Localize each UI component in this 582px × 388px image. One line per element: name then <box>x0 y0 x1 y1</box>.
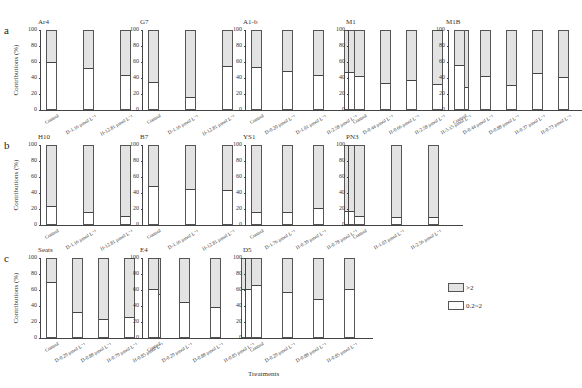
y-tick-label: 40 <box>23 74 37 80</box>
bar-segment-gt2 <box>84 146 93 213</box>
bar-segment-gt2 <box>47 31 56 63</box>
stacked-bar <box>354 30 365 110</box>
bar-segment-gt2 <box>407 31 416 81</box>
row-letter-b: b <box>4 139 10 151</box>
stacked-bar <box>313 30 324 110</box>
stacked-bar <box>185 30 196 110</box>
y-tick-label: 0 <box>331 221 345 227</box>
legend-swatch-small <box>448 301 464 310</box>
y-tick-label: 40 <box>125 302 139 308</box>
x-axis <box>348 225 463 226</box>
y-tick-label: 60 <box>23 286 37 292</box>
bar-segment-gt2 <box>507 31 516 86</box>
y-axis <box>245 145 246 225</box>
y-tick-label: 0 <box>23 334 37 340</box>
y-tick-mark <box>141 209 143 210</box>
y-tick-label: 40 <box>331 189 345 195</box>
stacked-bar <box>148 258 159 338</box>
stacked-bar <box>251 258 262 338</box>
y-tick-mark <box>347 78 349 79</box>
y-tick-label: 40 <box>125 189 139 195</box>
y-tick-mark <box>39 193 41 194</box>
bar-segment-gt2 <box>149 31 158 83</box>
y-tick-label: 100 <box>228 26 242 32</box>
legend-swatch-gt2 <box>448 283 464 292</box>
stacked-bar <box>148 30 159 110</box>
y-tick-label: 40 <box>228 74 242 80</box>
x-tick-label: D-1.16 μmol L⁻¹ <box>166 113 199 135</box>
panel-title-pn3: PN3 <box>346 133 358 141</box>
y-tick-label: 0 <box>228 106 242 112</box>
stacked-bar <box>251 30 262 110</box>
y-tick-label: 40 <box>331 74 345 80</box>
stacked-bar <box>313 258 324 338</box>
stacked-bar <box>72 258 83 338</box>
y-tick-label: 20 <box>228 90 242 96</box>
bar-segment-gt2 <box>252 259 261 286</box>
y-tick-mark <box>141 78 143 79</box>
x-tick-label: H-1.03 μmol L⁻¹ <box>372 228 405 250</box>
y-tick-mark <box>244 161 246 162</box>
y-tick-mark <box>39 322 41 323</box>
y-tick-label: 0 <box>431 106 445 112</box>
bar-segment-gt2 <box>429 146 438 218</box>
y-axis <box>40 145 41 225</box>
y-tick-mark <box>347 209 349 210</box>
bar-segment-gt2 <box>381 31 390 84</box>
legend-label-gt2: >2 <box>466 284 473 292</box>
y-tick-label: 40 <box>125 74 139 80</box>
y-tick-mark <box>244 306 246 307</box>
x-tick-label: H-12.81 μmol L⁻¹ <box>99 228 134 252</box>
stacked-bar <box>46 258 57 338</box>
y-tick-label: 80 <box>23 42 37 48</box>
y-tick-label: 80 <box>125 157 139 163</box>
panel-title-h10: H10 <box>38 133 50 141</box>
y-tick-mark <box>141 46 143 47</box>
x-tick-label: H-12.81 μmol L⁻¹ <box>201 228 236 252</box>
y-tick-label: 100 <box>431 26 445 32</box>
y-tick-mark <box>39 62 41 63</box>
bar-segment-gt2 <box>283 259 292 293</box>
y-tick-mark <box>141 94 143 95</box>
y-tick-mark <box>141 274 143 275</box>
y-tick-mark <box>347 110 349 111</box>
bar-segment-gt2 <box>314 146 323 209</box>
stacked-bar <box>179 258 190 338</box>
y-tick-mark <box>244 209 246 210</box>
bar-segment-gt2 <box>149 259 158 290</box>
bar-segment-gt2 <box>283 31 292 72</box>
x-tick-label: D-0.88 μmol L⁻¹ <box>191 341 224 363</box>
y-tick-mark <box>141 258 143 259</box>
y-tick-mark <box>447 78 449 79</box>
bar-segment-gt2 <box>84 31 93 69</box>
y-tick-label: 80 <box>23 270 37 276</box>
stacked-bar <box>282 145 293 225</box>
bar-segment-gt2 <box>252 146 261 213</box>
bar-segment-gt2 <box>73 259 82 313</box>
y-tick-label: 100 <box>331 26 345 32</box>
y-tick-mark <box>244 193 246 194</box>
y-tick-label: 0 <box>228 221 242 227</box>
y-tick-mark <box>39 177 41 178</box>
y-tick-label: 20 <box>431 90 445 96</box>
y-tick-label: 100 <box>23 254 37 260</box>
y-tick-label: 40 <box>23 189 37 195</box>
y-tick-mark <box>141 322 143 323</box>
y-tick-label: 80 <box>228 42 242 48</box>
y-tick-label: 20 <box>125 90 139 96</box>
panel-title-g7: G7 <box>140 18 149 26</box>
x-tick-label: H-12.81 μmol L⁻¹ <box>99 113 134 137</box>
bar-segment-gt2 <box>252 31 261 68</box>
y-tick-label: 40 <box>431 74 445 80</box>
x-tick-label: Control <box>44 341 60 353</box>
y-tick-label: 80 <box>125 270 139 276</box>
stacked-bar <box>83 145 94 225</box>
panel-title-seats: Seats <box>38 246 53 254</box>
y-tick-mark <box>141 30 143 31</box>
y-tick-mark <box>141 338 143 339</box>
y-tick-label: 0 <box>23 221 37 227</box>
stacked-bar <box>210 258 221 338</box>
panel-title-ar4: Ar4 <box>38 18 49 26</box>
bar-segment-gt2 <box>355 146 364 217</box>
y-tick-mark <box>244 94 246 95</box>
